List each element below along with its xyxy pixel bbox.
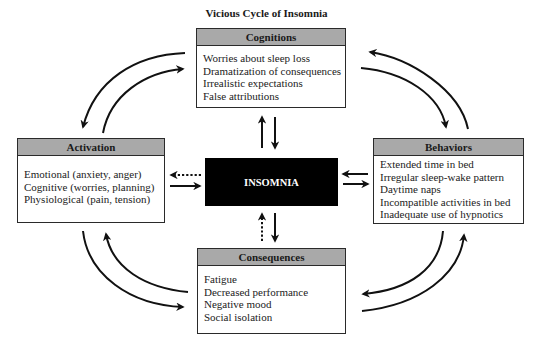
cognitions-list: Worries about sleep loss Dramatization o… [197, 46, 345, 102]
activation-box: Activation Emotional (anxiety, anger) Co… [17, 138, 165, 223]
list-item: Irrealistic expectations [203, 77, 345, 90]
arrow-cognitions-to-activation [83, 53, 185, 127]
list-item: Worries about sleep loss [203, 52, 345, 65]
arrow-consequences-to-behaviors [362, 235, 464, 311]
list-item: False attributions [203, 90, 345, 103]
cognitions-box: Cognitions Worries about sleep loss Dram… [196, 28, 346, 108]
list-item: Dramatization of consequences [203, 65, 345, 78]
list-item: Inadequate use of hypnotics [380, 208, 523, 221]
arrow-consequences-to-activation [106, 234, 188, 292]
cognitions-header: Cognitions [197, 29, 345, 46]
insomnia-center-box: INSOMNIA [205, 158, 338, 206]
arrow-behaviors-to-cognitions [370, 52, 468, 129]
consequences-list: Fatigue Decreased performance Negative m… [198, 266, 345, 323]
list-item: Incompatible activities in bed [380, 196, 523, 209]
arrow-activation-to-consequences [83, 231, 183, 307]
list-item: Emotional (anxiety, anger) [24, 168, 164, 181]
list-item: Daytime naps [380, 183, 523, 196]
arrow-cognitions-to-behaviors [361, 68, 446, 127]
activation-header: Activation [18, 139, 164, 156]
list-item: Extended time in bed [380, 158, 523, 171]
arrow-activation-to-cognitions [103, 69, 183, 133]
list-item: Decreased performance [204, 286, 345, 299]
behaviors-header: Behaviors [374, 139, 523, 156]
list-item: Social isolation [204, 311, 345, 324]
list-item: Irregular sleep-wake pattern [380, 171, 523, 184]
consequences-header: Consequences [198, 249, 345, 266]
list-item: Fatigue [204, 273, 345, 286]
list-item: Cognitive (worries, planning) [24, 181, 164, 194]
behaviors-box: Behaviors Extended time in bed Irregular… [373, 138, 524, 224]
consequences-box: Consequences Fatigue Decreased performan… [197, 248, 346, 334]
list-item: Physiological (pain, tension) [24, 193, 164, 206]
activation-list: Emotional (anxiety, anger) Cognitive (wo… [18, 156, 164, 206]
insomnia-label: INSOMNIA [244, 177, 299, 188]
behaviors-list: Extended time in bed Irregular sleep-wak… [374, 156, 523, 221]
list-item: Negative mood [204, 298, 345, 311]
arrow-behaviors-to-consequences [363, 231, 443, 294]
